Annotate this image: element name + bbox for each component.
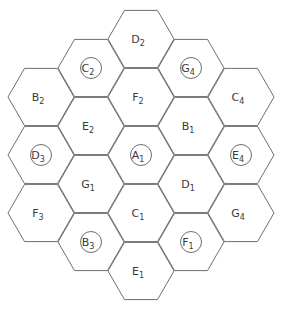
hex-cell-diagram: B2D3F3C2E2G1B3D2F2A1C1E1G4B1D1F1C4E4G4: [0, 0, 285, 314]
